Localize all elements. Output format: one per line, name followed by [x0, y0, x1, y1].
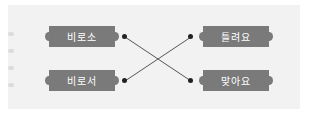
left-item-1[interactable]: 비로소 — [49, 26, 115, 47]
left-item-label: 비로서 — [67, 73, 97, 88]
right-item-2[interactable]: 맞아요 — [203, 70, 269, 91]
right-item-1[interactable]: 틀려요 — [203, 26, 269, 47]
left-connector-dot-2[interactable] — [122, 78, 127, 83]
right-item-label: 틀려요 — [221, 29, 251, 44]
connection-lines — [0, 0, 323, 116]
right-item-label: 맞아요 — [221, 73, 251, 88]
left-connector-dot-1[interactable] — [122, 34, 127, 39]
left-item-label: 비로소 — [67, 29, 97, 44]
left-item-2[interactable]: 비로서 — [49, 70, 115, 91]
right-connector-dot-2[interactable] — [188, 78, 193, 83]
right-connector-dot-1[interactable] — [188, 34, 193, 39]
